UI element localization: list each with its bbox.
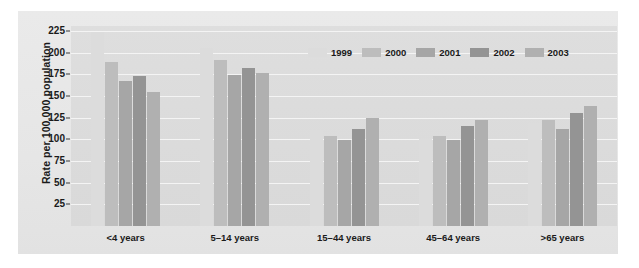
x-axis-category-label: 45–64 years — [426, 232, 480, 243]
chart-figure: Rate per 100,000 population 255075100125… — [0, 0, 639, 268]
bar — [447, 140, 460, 226]
bar — [419, 139, 432, 226]
legend-item: 2003 — [525, 47, 569, 58]
x-axis-category-label: <4 years — [106, 232, 144, 243]
legend-swatch — [362, 48, 381, 57]
y-axis-tick-label: 175 — [48, 69, 65, 79]
x-axis-category-label: 15–44 years — [317, 232, 371, 243]
y-axis-tick-label: 75 — [54, 156, 65, 166]
legend-item: 2002 — [470, 47, 514, 58]
legend-item: 1999 — [308, 47, 352, 58]
bar — [228, 75, 241, 227]
bar — [256, 73, 269, 226]
legend-label: 2003 — [548, 47, 569, 58]
y-axis-tick-mark — [66, 96, 70, 97]
legend-item: 2000 — [362, 47, 406, 58]
chart-legend: 19992000200120022003 — [304, 44, 573, 61]
bar — [542, 120, 555, 226]
bar — [528, 123, 541, 226]
legend-swatch — [308, 48, 327, 57]
bar-group — [91, 26, 160, 226]
bar — [147, 92, 160, 226]
y-axis-tick-label: 200 — [48, 48, 65, 58]
legend-swatch — [416, 48, 435, 57]
bar — [461, 126, 474, 226]
y-axis-tick-mark — [66, 31, 70, 32]
y-axis-tick-label: 100 — [48, 134, 65, 144]
y-axis-tick-label: 50 — [54, 178, 65, 188]
y-axis-tick-mark — [66, 139, 70, 140]
bar — [584, 106, 597, 226]
bar — [433, 136, 446, 226]
bar — [570, 113, 583, 226]
y-axis-tick-mark — [66, 204, 70, 205]
x-axis-labels: <4 years5–14 years15–44 years45–64 years… — [71, 232, 617, 252]
bar — [352, 129, 365, 226]
bar — [105, 62, 118, 227]
bar — [310, 130, 323, 226]
y-axis-tick-label: 225 — [48, 26, 65, 36]
legend-label: 1999 — [331, 47, 352, 58]
x-axis-category-label: 5–14 years — [210, 232, 259, 243]
y-axis-tick-label: 25 — [54, 199, 65, 209]
y-axis-tick-mark — [66, 117, 70, 118]
y-axis-tick-label: 150 — [48, 91, 65, 101]
legend-item: 2001 — [416, 47, 460, 58]
legend-label: 2001 — [439, 47, 460, 58]
y-axis-tick-mark — [66, 74, 70, 75]
x-axis-category-label: >65 years — [541, 232, 585, 243]
chart-panel: Rate per 100,000 population 255075100125… — [18, 11, 618, 254]
legend-label: 2002 — [493, 47, 514, 58]
bar — [200, 48, 213, 226]
bar — [91, 32, 104, 226]
bar — [324, 136, 337, 226]
y-axis-tick-mark — [66, 52, 70, 53]
bar — [133, 76, 146, 226]
y-axis-tick-mark — [66, 182, 70, 183]
y-axis-tick-label: 125 — [48, 113, 65, 123]
bar-group — [200, 26, 269, 226]
bar — [214, 60, 227, 226]
bar — [475, 120, 488, 226]
legend-swatch — [525, 48, 544, 57]
legend-label: 2000 — [385, 47, 406, 58]
bar — [242, 68, 255, 226]
bar — [338, 140, 351, 226]
bar — [556, 129, 569, 226]
bar — [366, 118, 379, 226]
y-axis-tick-mark — [66, 161, 70, 162]
bar — [119, 81, 132, 226]
legend-swatch — [470, 48, 489, 57]
